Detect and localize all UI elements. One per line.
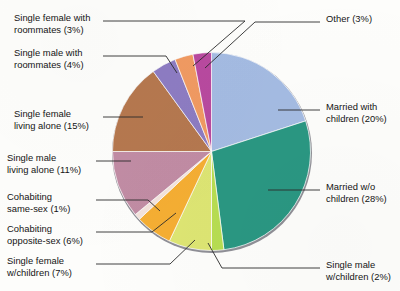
callout-cohabiting-opposite-sex: Cohabiting opposite-sex (6%): [7, 223, 83, 248]
callout-cohabiting-same-sex: Cohabiting same-sex (1%): [7, 191, 70, 216]
callout-single-male-alone: Single male living alone (11%): [7, 152, 81, 177]
callout-single-male-children: Single male w/children (2%): [326, 259, 391, 284]
callout-single-female-alone: Single female living alone (15%): [14, 108, 89, 133]
callout-married-wo-children: Married w/o children (28%): [326, 181, 387, 206]
callout-married-with-children: Married with children (20%): [326, 101, 387, 126]
pie-chart-figure: Married with children (20%)Married w/o c…: [0, 0, 400, 291]
pie-slices-group: Married with children (20%)Married w/o c…: [113, 52, 311, 250]
callout-single-female-children: Single female w/children (7%): [7, 255, 72, 280]
callout-single-female-roommates: Single female with roommates (3%): [14, 12, 90, 37]
callout-other: Other (3%): [326, 13, 372, 25]
callout-single-male-roommates: Single male with roommates (4%): [14, 47, 84, 72]
